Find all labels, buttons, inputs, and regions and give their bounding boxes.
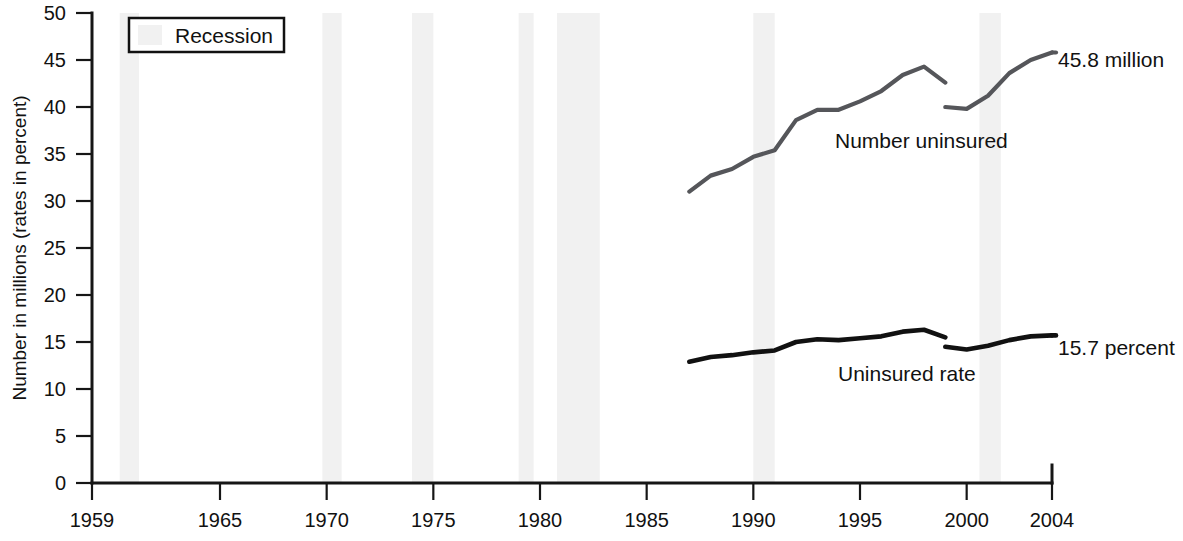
legend: Recession [129, 18, 284, 52]
recession-band [120, 13, 139, 483]
x-tick-label: 1959 [70, 509, 115, 531]
x-axis-ticks: 1959196519701975198019851990199520002004 [70, 483, 1075, 531]
legend-swatch-recession [138, 25, 162, 45]
uninsured-line-chart: 05101520253035404550 1959196519701975198… [0, 0, 1183, 541]
y-tick-label: 30 [44, 190, 66, 212]
y-tick-label: 45 [44, 49, 66, 71]
x-tick-label: 1985 [624, 509, 669, 531]
y-tick-label: 10 [44, 378, 66, 400]
uninsured-rate-end-label: 15.7 percent [1058, 336, 1175, 359]
recession-band [519, 13, 534, 483]
uninsured-rate-line-segment-1 [689, 330, 945, 362]
y-tick-label: 25 [44, 237, 66, 259]
y-tick-label: 35 [44, 143, 66, 165]
x-tick-label: 1995 [838, 509, 883, 531]
x-tick-label: 1970 [304, 509, 349, 531]
recession-band [412, 13, 433, 483]
x-tick-label: 1965 [198, 509, 243, 531]
recession-bands-group [120, 13, 1001, 483]
x-axis: 1959196519701975198019851990199520002004 [70, 483, 1075, 531]
y-tick-label: 15 [44, 331, 66, 353]
number-uninsured-series-label: Number uninsured [835, 129, 1008, 152]
number-uninsured-end-label: 45.8 million [1058, 48, 1164, 71]
y-tick-label: 50 [44, 2, 66, 24]
chart-container: 05101520253035404550 1959196519701975198… [0, 0, 1183, 541]
recession-band [753, 13, 774, 483]
x-tick-label: 2004 [1030, 509, 1075, 531]
y-tick-label: 0 [55, 472, 66, 494]
y-axis-title: Number in millions (rates in percent) [9, 95, 30, 400]
recession-band [557, 13, 600, 483]
y-axis: 05101520253035404550 [44, 2, 92, 494]
uninsured-rate-series-label: Uninsured rate [838, 362, 976, 385]
y-axis-ticks: 05101520253035404550 [44, 2, 92, 494]
x-tick-label: 1990 [731, 509, 776, 531]
recession-band [322, 13, 341, 483]
x-tick-label: 1975 [411, 509, 456, 531]
y-tick-label: 20 [44, 284, 66, 306]
y-tick-label: 40 [44, 96, 66, 118]
legend-label-recession: Recession [175, 24, 273, 47]
x-tick-label: 1980 [518, 509, 563, 531]
y-tick-label: 5 [55, 425, 66, 447]
x-tick-label: 2000 [944, 509, 989, 531]
